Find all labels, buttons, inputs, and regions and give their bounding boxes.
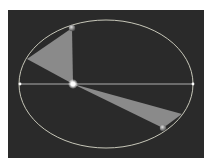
axis-endpoint-right xyxy=(192,83,195,86)
planet-near-aphelion xyxy=(69,25,75,31)
axis-endpoint-left xyxy=(19,83,22,86)
planet-near-perihelion xyxy=(160,125,166,131)
perihelion-sector xyxy=(73,84,182,128)
aphelion-sector xyxy=(27,28,73,84)
sun-icon xyxy=(71,82,75,86)
orbit-diagram xyxy=(0,0,216,166)
